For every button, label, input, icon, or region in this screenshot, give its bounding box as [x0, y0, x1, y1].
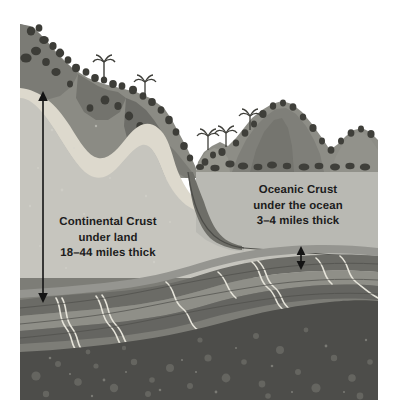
continental-label-line-3: 18–44 miles thick [38, 246, 178, 262]
oceanic-label-line-3: 3–4 miles thick [232, 214, 364, 230]
oceanic-crust-label: Oceanic Crust under the ocean 3–4 miles … [232, 183, 364, 230]
crust-diagram-illustration: Continental Crust under land 18–44 miles… [0, 0, 393, 420]
continental-label-line-2: under land [38, 231, 178, 247]
continental-label-line-1: Continental Crust [38, 215, 178, 231]
oceanic-label-line-2: under the ocean [232, 199, 364, 215]
oceanic-label-line-1: Oceanic Crust [232, 183, 364, 199]
continental-crust-label: Continental Crust under land 18–44 miles… [38, 215, 178, 262]
